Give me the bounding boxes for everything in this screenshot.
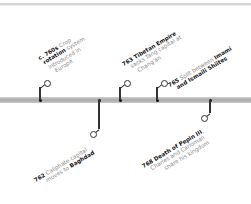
event-label: 763 Tibetan Empire sacks Tang capital at…	[121, 29, 186, 79]
connector-line	[98, 100, 99, 129]
event-label: 765 Split between Imami and Ismaili Shii…	[167, 45, 236, 94]
connector-line	[209, 100, 210, 113]
top-divider-shadow	[0, 5, 251, 6]
event-label: c. 760s Crop rotation system introduced …	[37, 31, 93, 78]
event-node-circle-icon	[90, 131, 97, 138]
event-node-circle-icon	[201, 115, 208, 122]
event-node-circle-icon	[44, 80, 51, 87]
event-node-circle-icon	[124, 80, 131, 87]
event-label: 762 Caliphate capital moves to Baghdad	[33, 144, 96, 189]
timeline-axis	[0, 97, 251, 103]
event-label: 768 Death of Pepin III, Charles and Carl…	[141, 128, 211, 181]
